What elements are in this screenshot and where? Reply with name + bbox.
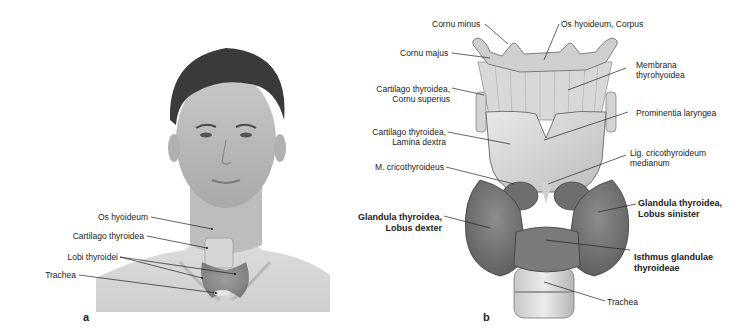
label-cartilago-thyroidea: Cartilago thyroidea [60, 231, 144, 241]
label-lamina-line1: Cartilago thyroidea, [356, 127, 446, 137]
label-cornu-majus: Cornu majus [400, 48, 448, 58]
label-lobus-sinister-line2: Lobus sinister [638, 209, 722, 220]
label-lamina-line2: Lamina dextra [356, 137, 446, 147]
label-m-cricothyroideus: M. cricothyroideus [356, 162, 444, 172]
label-trachea-a: Trachea [36, 270, 76, 280]
label-trachea-b: Trachea [607, 297, 638, 307]
label-membrana-line2: thyrohyoidea [636, 70, 685, 80]
panel-b-letter: b [483, 311, 490, 323]
panel-a-letter: a [83, 311, 89, 323]
label-cornu-superius-line2: Cornu superius [360, 94, 450, 104]
label-isthmus: Isthmus glandulae thyroideae [634, 252, 713, 274]
label-lobus-dexter-line2: Lobus dexter [346, 223, 442, 234]
label-isthmus-line2: thyroideae [634, 263, 713, 274]
label-os-hyoideum: Os hyoideum [92, 212, 148, 222]
label-cornu-minus: Cornu minus [432, 19, 480, 29]
label-isthmus-line1: Isthmus glandulae [634, 252, 713, 263]
label-lobus-dexter-line1: Glandula thyroidea, [346, 212, 442, 223]
label-os-hyoideum-corpus: Os hyoideum, Corpus [561, 19, 643, 29]
label-lig-line2: medianum [630, 158, 706, 168]
label-lobus-sinister-line1: Glandula thyroidea, [638, 198, 722, 209]
label-lig-line1: Lig. cricothyroideum [630, 148, 706, 158]
label-lamina-dextra: Cartilago thyroidea, Lamina dextra [356, 127, 446, 147]
label-lobi-thyroidei: Lobi thyroidei [56, 252, 118, 262]
label-prominentia-laryngea: Prominentia laryngea [636, 108, 716, 118]
label-lobus-dexter: Glandula thyroidea, Lobus dexter [346, 212, 442, 234]
label-cornu-superius: Cartilago thyroidea, Cornu superius [360, 84, 450, 104]
label-cornu-superius-line1: Cartilago thyroidea, [360, 84, 450, 94]
label-lobus-sinister: Glandula thyroidea, Lobus sinister [638, 198, 722, 220]
label-membrana-line1: Membrana [636, 60, 685, 70]
label-membrana-thyrohyoidea: Membrana thyrohyoidea [636, 60, 685, 80]
label-lig-cricothyroideum: Lig. cricothyroideum medianum [630, 148, 706, 168]
